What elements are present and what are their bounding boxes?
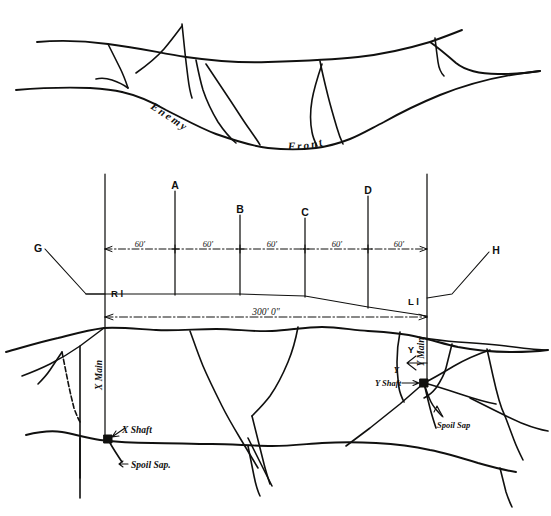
spacing-value-3: 60' [267, 239, 278, 249]
enemy-label: Enemy [148, 99, 191, 133]
spacing-value-2: 60' [203, 239, 214, 249]
y-upper-right-trench [418, 337, 548, 350]
upper-front-trench-left [16, 88, 122, 92]
upper-sap-right [320, 61, 343, 144]
y-shaft-tick-label: Y [408, 344, 415, 355]
left-sap-dashed [62, 352, 80, 422]
label-h: H [492, 244, 500, 256]
rear-sap-right [500, 468, 512, 507]
gallery-label-a: A [171, 179, 179, 191]
forward-firing-trench [6, 327, 548, 352]
h-leader-line [427, 252, 489, 298]
upper-sap-far-right [435, 38, 444, 76]
diagram-page: Enemy Front A B C D [0, 0, 551, 516]
x-shaft-label: X Shaft [121, 425, 152, 435]
x-shaft-marker [104, 435, 112, 443]
overall-dimension-value: 300' 0" [251, 307, 280, 317]
y-shaft-radial-sw [346, 383, 424, 446]
gallery-label-b: B [236, 203, 244, 215]
spacing-value-1: 60' [135, 239, 146, 249]
right-limit-label: R l [111, 288, 123, 299]
diagram-canvas: Enemy Front A B C D [0, 0, 551, 516]
spacing-dimension-line: 60' 60' 60' 60' 60' [105, 239, 427, 253]
front-label: Front [287, 135, 326, 152]
g-leader-line [45, 249, 105, 294]
rear-sap-mid [248, 446, 260, 496]
upper-sap-left [108, 44, 128, 88]
x-spoil-sap-label: Spoil Sap. [131, 460, 171, 470]
upper-sap-center-tall [182, 24, 192, 98]
upper-support-trench [37, 30, 462, 62]
lower-mine-plan: A B C D 60' 60' 60 [6, 174, 548, 507]
upper-trench-plan: Enemy Front [16, 24, 540, 152]
center-sap-right-leg [252, 327, 298, 416]
far-right-sap-1 [487, 349, 505, 416]
y-shaft-label: Y Shaft [375, 378, 402, 388]
left-branch-trench [22, 328, 104, 376]
x-spoil-sap-line [110, 443, 122, 462]
y-shaft-radial-ne [424, 350, 490, 383]
y-shaft-marker [420, 379, 428, 387]
upper-sap-right-diagonal [311, 64, 323, 146]
rear-trench [26, 431, 516, 472]
y-main-label: Y Main [416, 338, 426, 367]
upper-sap-left-diagonal [96, 78, 128, 88]
gallery-label-d: D [364, 184, 372, 196]
y-spoil-sap-label: Spoil Sap [437, 420, 470, 430]
left-limit-label: L l [408, 296, 419, 307]
y-shaft-radial-e [424, 383, 496, 404]
spacing-value-4: 60' [332, 239, 343, 249]
spacing-value-5: 60' [394, 239, 405, 249]
y-shaft-leader [402, 381, 419, 386]
x-main-label: X Main [94, 360, 104, 391]
gallery-label-c: C [301, 206, 309, 218]
upper-right-branch [430, 42, 540, 74]
x-spoil-sap-leader [119, 461, 128, 467]
label-g: G [34, 242, 42, 254]
upper-sap-center [196, 60, 236, 143]
y-shaft-label-line1: Y [394, 365, 400, 375]
